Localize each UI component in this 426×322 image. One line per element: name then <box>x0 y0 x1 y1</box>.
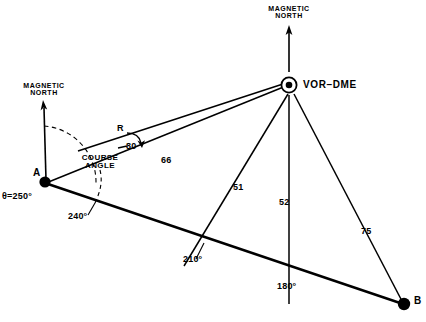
point-b-marker <box>398 298 410 310</box>
radial-label-180: 180° <box>277 282 296 291</box>
radial-label-240: 240° <box>68 212 87 221</box>
magnetic-north-label-station: MAGNETIC NORTH <box>258 5 320 20</box>
vor-dme-diagram: MAGNETIC NORTH MAGNETIC NORTH VOR–DME CO… <box>0 0 426 322</box>
course-angle-leader <box>95 170 101 203</box>
point-b-label: B <box>414 296 421 307</box>
distance-label-52: 52 <box>279 198 289 207</box>
point-a-marker <box>39 176 50 187</box>
radial-line-80 <box>78 83 286 151</box>
vor-radial-lines <box>46 83 403 304</box>
radial-line-51 <box>184 94 288 266</box>
magnetic-north-line-station <box>286 25 293 72</box>
radial-label-210: 210° <box>183 255 202 264</box>
magnetic-north-line-point-a <box>41 100 48 180</box>
point-a-label: A <box>33 168 40 179</box>
distance-label-75: 75 <box>361 227 371 236</box>
theta-label: θ=250° <box>2 192 32 201</box>
course-angle-label: COURSE ANGLE <box>60 154 140 171</box>
magnetic-north-label-point-a: MAGNETIC NORTH <box>13 82 75 97</box>
radial-marker-label: R <box>117 124 124 133</box>
distance-label-51: 51 <box>233 183 243 192</box>
radial-240-tick <box>88 203 95 215</box>
vor-dme-station-icon <box>281 77 296 92</box>
vor-dme-label: VOR–DME <box>303 80 357 91</box>
distance-label-80: 80 <box>126 142 136 151</box>
distance-label-66: 66 <box>161 156 171 165</box>
